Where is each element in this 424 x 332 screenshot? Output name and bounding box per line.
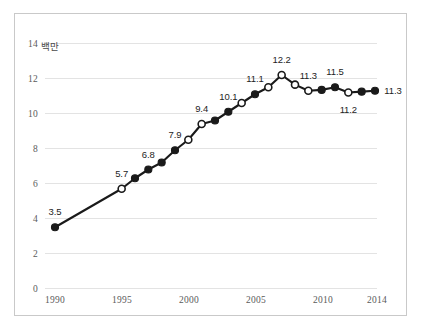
- data-marker-open: [278, 72, 285, 79]
- chart-figure: 백만 14 12 10 8 6 4 2 0 1990 1995 2000 200…: [0, 0, 424, 332]
- x-tick-2010: 2010: [300, 295, 346, 305]
- x-tick-2005: 2005: [233, 295, 279, 305]
- data-point-label: 3.5: [42, 206, 68, 217]
- data-point-label: 7.9: [162, 129, 188, 140]
- data-marker-open: [198, 121, 205, 128]
- data-marker-open: [292, 81, 299, 88]
- y-tick-6: 6: [16, 179, 38, 189]
- x-tick-2000: 2000: [166, 295, 212, 305]
- y-tick-2: 2: [16, 249, 38, 259]
- y-tick-12: 12: [16, 74, 38, 84]
- data-marker-open: [265, 84, 272, 91]
- x-tick-2014: 2014: [354, 295, 400, 305]
- data-marker-filled: [252, 91, 259, 98]
- x-tick-1990: 1990: [32, 295, 78, 305]
- x-tick-1995: 1995: [99, 295, 145, 305]
- data-point-label: 11.5: [322, 66, 348, 77]
- gridlines: [45, 44, 377, 289]
- data-marker-filled: [358, 88, 365, 95]
- data-point-label: 11.3: [380, 85, 406, 96]
- y-tick-8: 8: [16, 144, 38, 154]
- data-marker-open: [118, 185, 125, 192]
- y-tick-10: 10: [16, 109, 38, 119]
- data-point-label: 9.4: [189, 103, 215, 114]
- data-marker-filled: [318, 86, 325, 93]
- data-marker-filled: [225, 108, 232, 115]
- y-axis-unit-label: 백만: [41, 39, 59, 53]
- data-point-label: 11.2: [335, 104, 361, 115]
- data-marker-filled: [52, 224, 59, 231]
- data-point-label: 6.8: [135, 149, 161, 160]
- data-marker-filled: [145, 166, 152, 173]
- data-marker-filled: [172, 147, 179, 154]
- y-tick-14: 14: [16, 39, 38, 49]
- y-tick-4: 4: [16, 214, 38, 224]
- data-point-label: 5.7: [109, 168, 135, 179]
- data-point-label: 10.1: [215, 91, 241, 102]
- data-marker-filled: [332, 84, 339, 91]
- y-tick-0: 0: [16, 284, 38, 294]
- data-point-label: 12.2: [269, 54, 295, 65]
- data-marker-open: [345, 89, 352, 96]
- data-marker-filled: [212, 117, 219, 124]
- data-point-label: 11.3: [295, 70, 321, 81]
- line-chart-plot: [0, 0, 424, 332]
- data-point-label: 11.1: [242, 73, 268, 84]
- data-marker-filled: [372, 87, 379, 94]
- data-marker-open: [305, 87, 312, 94]
- data-marker-filled: [158, 159, 165, 166]
